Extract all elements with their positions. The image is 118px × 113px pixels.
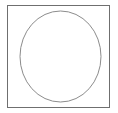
circle-shape	[20, 11, 101, 102]
square-shape	[8, 6, 110, 108]
geometry-diagram	[0, 0, 118, 113]
figure-canvas: Square with inscribed circle Square Circ…	[0, 0, 118, 113]
